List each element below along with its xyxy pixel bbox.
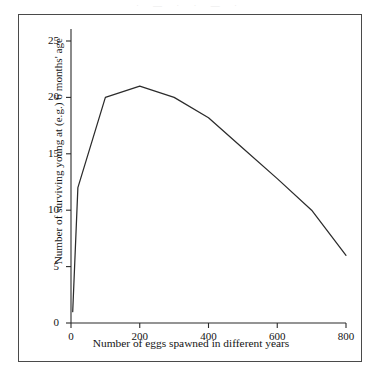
x-tick-label: 0 — [51, 330, 91, 342]
x-tick-label: 200 — [120, 330, 160, 342]
y-tick-label: 5 — [29, 260, 59, 272]
data-series-line — [73, 86, 346, 312]
figure-root: · — · · — · Number of surviving young at… — [0, 0, 379, 378]
figure-frame: Number of surviving young at (e.g.) 6 mo… — [18, 14, 362, 362]
clipped-caption-sliver: · — · · — · — [0, 0, 379, 9]
y-tick-label: 0 — [29, 316, 59, 328]
y-tick-label: 10 — [29, 203, 59, 215]
x-tick-label: 800 — [326, 330, 366, 342]
y-tick-label: 25 — [29, 34, 59, 46]
plot-area — [19, 15, 363, 363]
x-tick-label: 400 — [189, 330, 229, 342]
y-axis-ticks — [66, 41, 71, 323]
y-tick-label: 15 — [29, 147, 59, 159]
axis-lines — [71, 29, 346, 323]
x-axis-ticks — [71, 323, 346, 328]
x-tick-label: 600 — [257, 330, 297, 342]
y-tick-label: 20 — [29, 90, 59, 102]
